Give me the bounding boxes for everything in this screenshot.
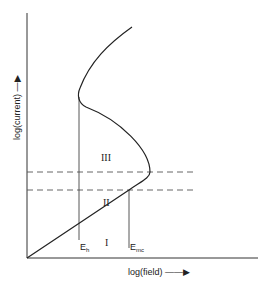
current-field-curve	[27, 27, 150, 258]
region-III-label: III	[101, 153, 111, 163]
emc-label: Emc	[130, 243, 144, 253]
emc-label-sub: mc	[136, 247, 144, 253]
x-axis-label-text: log(field)	[128, 267, 163, 277]
y-axis-label: log(current) —▶	[13, 75, 22, 140]
eh-label-sub: h	[86, 247, 89, 253]
y-axis-label-text: log(current)	[12, 94, 22, 140]
region-I-label: I	[105, 238, 108, 248]
eh-label: Eh	[80, 243, 89, 253]
x-axis-label: log(field) ——▶	[128, 268, 190, 277]
region-II-label: II	[103, 198, 110, 208]
x-axis-arrow-icon: ——▶	[165, 267, 190, 277]
y-axis-arrow-icon: —▶	[12, 75, 22, 91]
